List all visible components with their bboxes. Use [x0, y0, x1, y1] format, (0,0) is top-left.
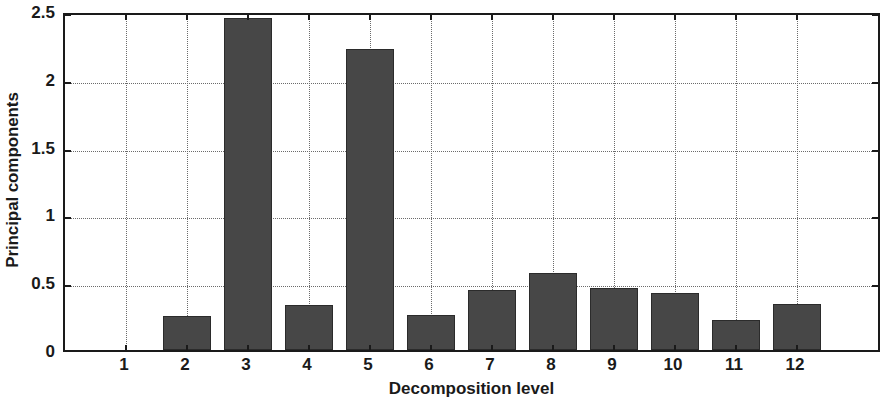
y-tick-mark — [63, 82, 71, 84]
x-tick-mark — [491, 345, 493, 352]
x-tick-mark — [796, 345, 798, 352]
x-axis-label: Decomposition level — [63, 379, 880, 399]
x-gridline — [736, 15, 737, 350]
x-tick-label: 10 — [664, 355, 683, 375]
x-tick-label: 6 — [424, 355, 433, 375]
y-tick-mark — [63, 150, 71, 152]
x-tick-mark — [613, 13, 615, 20]
y-tick-label: 0 — [12, 342, 62, 362]
y-tick-mark — [872, 82, 880, 84]
x-tick-mark — [186, 13, 188, 20]
x-gridline — [187, 15, 188, 350]
x-tick-label: 9 — [607, 355, 616, 375]
x-tick-label: 12 — [786, 355, 805, 375]
x-tick-mark — [308, 345, 310, 352]
y-tick-mark — [872, 285, 880, 287]
x-tick-mark — [247, 13, 249, 20]
y-tick-label: 0.5 — [12, 274, 62, 294]
y-tick-mark — [63, 14, 71, 16]
bar — [590, 288, 638, 350]
x-tick-label: 7 — [485, 355, 494, 375]
plot-inner — [65, 15, 878, 350]
bar — [285, 305, 333, 350]
y-tick-label: 2.5 — [12, 3, 62, 23]
chart-figure: Principal components 00.511.522.5 123456… — [0, 0, 887, 403]
x-tick-mark — [674, 345, 676, 352]
y-tick-mark — [872, 150, 880, 152]
plot-area — [63, 13, 880, 352]
x-tick-mark — [674, 13, 676, 20]
y-tick-label: 1.5 — [12, 139, 62, 159]
x-tick-label: 4 — [302, 355, 311, 375]
x-gridline — [126, 15, 127, 350]
x-tick-mark — [491, 13, 493, 20]
x-tick-mark — [552, 345, 554, 352]
y-axis-tick-labels: 00.511.522.5 — [12, 0, 62, 403]
x-tick-mark — [735, 13, 737, 20]
x-tick-mark — [125, 13, 127, 20]
bar — [529, 273, 577, 350]
x-tick-label: 3 — [241, 355, 250, 375]
y-tick-mark — [872, 14, 880, 16]
x-gridline — [431, 15, 432, 350]
x-tick-mark — [308, 13, 310, 20]
x-tick-mark — [369, 13, 371, 20]
x-tick-mark — [369, 345, 371, 352]
x-tick-mark — [613, 345, 615, 352]
x-tick-mark — [430, 345, 432, 352]
x-tick-mark — [125, 345, 127, 352]
x-tick-mark — [735, 345, 737, 352]
y-tick-mark — [63, 285, 71, 287]
x-tick-mark — [430, 13, 432, 20]
x-tick-label: 8 — [546, 355, 555, 375]
x-tick-label: 1 — [119, 355, 128, 375]
x-tick-mark — [796, 13, 798, 20]
y-tick-mark — [872, 217, 880, 219]
y-tick-label: 2 — [12, 71, 62, 91]
x-tick-mark — [186, 345, 188, 352]
x-tick-mark — [247, 345, 249, 352]
bar — [346, 49, 394, 350]
y-tick-label: 1 — [12, 206, 62, 226]
x-tick-label: 5 — [363, 355, 372, 375]
bar — [224, 18, 272, 350]
x-axis-tick-labels: 123456789101112 — [63, 355, 880, 381]
x-tick-mark — [552, 13, 554, 20]
bar — [773, 304, 821, 350]
y-tick-mark — [63, 217, 71, 219]
bar — [468, 290, 516, 350]
x-tick-label: 2 — [180, 355, 189, 375]
x-gridline — [797, 15, 798, 350]
x-gridline — [309, 15, 310, 350]
x-tick-label: 11 — [725, 355, 743, 375]
bar — [651, 293, 699, 350]
